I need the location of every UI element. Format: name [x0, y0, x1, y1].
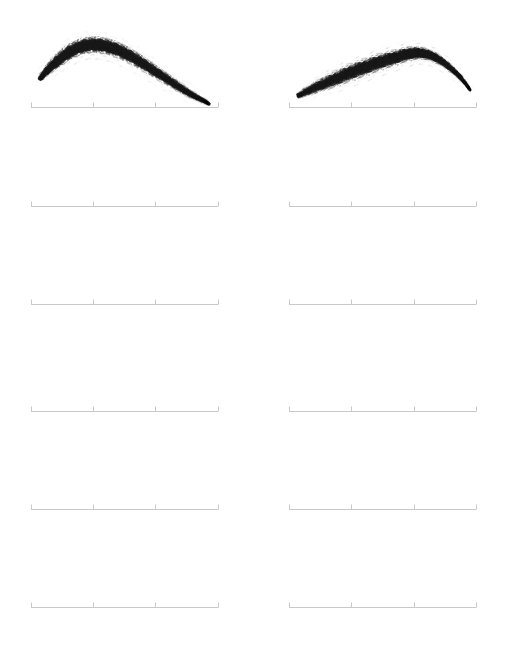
eyebrow-panel-figure: [0, 0, 507, 651]
